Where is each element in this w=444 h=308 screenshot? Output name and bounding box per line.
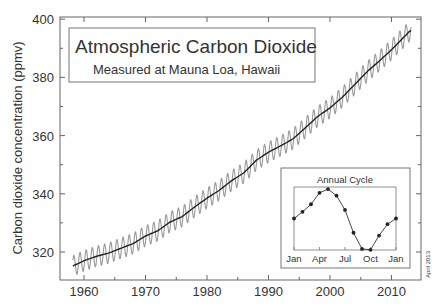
inset-data-point: [386, 222, 390, 226]
inset-data-point: [343, 208, 347, 212]
chart-title: Atmospheric Carbon Dioxide: [75, 36, 317, 57]
inset-data-point: [301, 210, 305, 214]
x-tick-label: 1990: [254, 284, 283, 299]
y-axis-label: Carbon dioxide concentration (ppmv): [10, 41, 25, 254]
title-box: Atmospheric Carbon Dioxide Measured at M…: [69, 28, 317, 82]
y-tick-label: 320: [32, 245, 54, 260]
inset-title: Annual Cycle: [317, 174, 373, 185]
chart-subtitle: Measured at Mauna Loa, Hawaii: [93, 62, 280, 77]
inset-x-tick-label: Jan: [388, 253, 403, 264]
inset-data-point: [377, 234, 381, 238]
y-tick-label: 340: [32, 187, 54, 202]
inset-data-point: [335, 194, 339, 198]
inset-data-point: [369, 248, 373, 252]
x-tick-label: 1960: [70, 284, 99, 299]
inset-data-point: [309, 202, 313, 206]
inset-data-point: [292, 217, 296, 221]
inset-data-point: [352, 231, 356, 235]
x-tick-label: 1970: [131, 284, 160, 299]
inset-data-point: [394, 217, 398, 221]
y-tick-label: 400: [32, 12, 54, 27]
inset-x-tick-label: Jan: [286, 253, 301, 264]
x-tick-label: 2000: [316, 284, 345, 299]
x-tick-label: 2010: [377, 284, 406, 299]
y-tick-label: 360: [32, 129, 54, 144]
inset-x-tick-label: Apr: [312, 253, 327, 264]
inset-data-point: [360, 247, 364, 251]
inset-x-tick-label: Jul: [339, 253, 351, 264]
inset-data-point: [318, 191, 322, 195]
y-tick-label: 380: [32, 70, 54, 85]
chart: 320340360380400 196019701980199020002010…: [0, 0, 444, 308]
inset-x-tick-label: Oct: [363, 253, 378, 264]
annual-cycle-inset: Annual Cycle JanAprJulOctJan: [281, 168, 410, 268]
inset-data-point: [326, 187, 330, 191]
date-annotation: April 2013: [425, 250, 431, 278]
x-tick-label: 1980: [193, 284, 222, 299]
